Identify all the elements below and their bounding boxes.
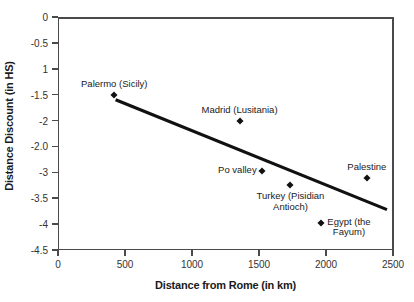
x-axis-tick-label: 1500 xyxy=(248,259,270,270)
data-point-label: Turkey (PisidianAntioch) xyxy=(257,191,325,212)
plot-frame-top-border xyxy=(58,17,394,19)
y-axis-tick-label: -2 xyxy=(39,115,48,126)
y-axis-tick-mark xyxy=(52,197,58,199)
x-axis-tick-mark xyxy=(258,250,260,256)
y-axis-tick-label: -2.0 xyxy=(31,141,48,152)
y-axis-title-text: Distance Discount (in HS) xyxy=(3,61,15,190)
y-axis-tick-label: -1.5 xyxy=(31,89,48,100)
x-axis-tick-label: 0 xyxy=(55,259,61,270)
y-axis-tick-mark xyxy=(52,94,58,96)
x-axis-tick-mark xyxy=(191,250,193,256)
x-axis-title: Distance from Rome (in km) xyxy=(58,279,393,291)
x-axis-tick-mark xyxy=(124,250,126,256)
x-axis-tick-label: 500 xyxy=(117,259,134,270)
y-axis-tick-mark xyxy=(52,120,58,122)
data-point-label: Palestine xyxy=(347,162,386,173)
y-axis-tick-mark xyxy=(52,172,58,174)
y-axis-tick-mark xyxy=(52,42,58,44)
x-axis-tick-label: 2000 xyxy=(315,259,337,270)
y-axis-tick-mark xyxy=(52,146,58,148)
x-axis-tick-label: 1000 xyxy=(181,259,203,270)
y-axis-tick-label: 0 xyxy=(42,12,48,23)
y-axis-tick-label: -4 xyxy=(39,219,48,230)
scatter-chart-figure: Distance Discount (in HS) 0-0.51-1.5-2-2… xyxy=(0,0,414,302)
x-axis-tick-mark xyxy=(325,250,327,256)
x-axis-tick-label: 2500 xyxy=(382,259,404,270)
y-axis-tick-mark xyxy=(52,16,58,18)
x-axis-title-text: Distance from Rome (in km) xyxy=(155,279,296,291)
y-axis-tick-label: -4.5 xyxy=(31,245,48,256)
data-point-label: Egypt (theFayum) xyxy=(327,217,370,238)
x-axis-tick-mark xyxy=(57,250,59,256)
data-point-label: Po valley xyxy=(218,165,257,176)
y-axis-title: Distance Discount (in HS) xyxy=(0,0,18,252)
y-axis-tick-label: -3.5 xyxy=(31,193,48,204)
y-axis-tick-mark xyxy=(52,68,58,70)
y-axis-tick-label: -0.5 xyxy=(31,37,48,48)
y-axis-tick-label: -3 xyxy=(39,167,48,178)
plot-frame-right-border xyxy=(392,17,394,251)
data-point-label: Palermo (Sicily) xyxy=(81,79,148,90)
y-axis-tick-label: 1 xyxy=(42,63,48,74)
data-point-label: Madrid (Lusitania) xyxy=(202,105,278,116)
x-axis-tick-mark xyxy=(392,250,394,256)
y-axis-tick-mark xyxy=(52,223,58,225)
